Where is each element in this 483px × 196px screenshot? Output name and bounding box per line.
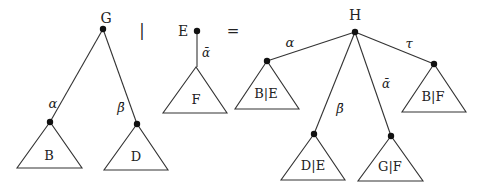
node-label-h: H: [349, 7, 361, 23]
node-g: [100, 26, 106, 32]
subtree-label-d: D: [131, 149, 141, 164]
node-b-f-root: [431, 61, 437, 67]
operator-equals: =: [227, 22, 240, 40]
edge-label-beta-bar: β̄: [116, 100, 125, 115]
node-g-f-root: [388, 133, 394, 139]
tree-substitution-diagram: G α β̄ B D | E ᾱ F = H α β̄ ᾱ: [0, 0, 483, 196]
edge-label-alpha-bar: ᾱ: [202, 46, 210, 60]
node-b-root: [47, 119, 53, 125]
subtree-label-b-e: B|E: [254, 86, 277, 101]
edge-h-de: [314, 32, 355, 134]
subtree-label-b-f: B|F: [422, 89, 445, 104]
node-h: [352, 29, 358, 35]
edge-h-be: [267, 32, 355, 61]
result-tree: H α β̄ ᾱ τ B|E D|E G|F B|F: [235, 7, 466, 181]
edge-label-alpha: α: [49, 96, 58, 111]
left-tree: G α β̄ B D: [17, 10, 168, 170]
operator-bar: |: [139, 21, 144, 40]
node-b-e-root: [264, 58, 270, 64]
node-label-g: G: [100, 10, 111, 26]
subtree-b-e: [235, 61, 299, 109]
edge-label-alpha-bar: ᾱ: [382, 77, 390, 91]
subtree-label-f: F: [191, 92, 200, 107]
middle-tree: E ᾱ F: [163, 23, 227, 113]
subtree-d-e: [281, 134, 345, 180]
subtree-label-d-e: D|E: [301, 158, 325, 173]
edge-label-beta-bar: β̄: [335, 101, 344, 116]
subtree-b-f: [402, 64, 466, 112]
edge-h-bf: [355, 32, 434, 64]
edge-label-alpha: α: [286, 35, 295, 50]
node-d-root: [134, 121, 140, 127]
subtree-label-g-f: G|F: [378, 159, 402, 174]
node-e: [194, 28, 200, 34]
edge-g-b: [50, 29, 103, 122]
node-label-e: E: [178, 23, 188, 39]
edge-label-tau: τ: [405, 36, 413, 51]
node-d-e-root: [311, 131, 317, 137]
subtree-label-b: B: [44, 148, 54, 163]
